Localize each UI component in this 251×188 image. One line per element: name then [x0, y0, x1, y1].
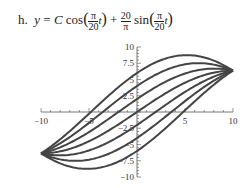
x-tick-label: 5	[183, 116, 188, 126]
y-tick-label: 10	[125, 42, 135, 52]
x-tick-label: 10	[229, 116, 239, 126]
chart-plot: −10−5510107.552.5−2.5−5−7.5−10	[0, 0, 251, 188]
y-tick-label: 7.5	[123, 58, 135, 68]
x-tick-label: −10	[34, 116, 49, 126]
y-tick-label: −10	[120, 172, 135, 182]
